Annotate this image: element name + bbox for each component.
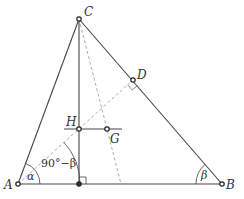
- label-a: A: [3, 178, 13, 192]
- label-g: G: [110, 132, 120, 146]
- point-h: [77, 127, 81, 131]
- triangle-diagram: C D H G A B α 90°−β β: [0, 0, 244, 199]
- right-angle-marker-d: [128, 85, 138, 90]
- point-g: [105, 127, 109, 131]
- label-h: H: [65, 115, 77, 129]
- point-foot: [77, 182, 81, 186]
- point-a: [16, 182, 20, 186]
- label-d: D: [136, 68, 147, 82]
- point-d: [131, 78, 135, 82]
- point-c: [77, 17, 81, 21]
- angle-label-alpha: α: [27, 170, 35, 183]
- angle-label-beta: β: [200, 169, 207, 182]
- label-c: C: [84, 5, 93, 19]
- point-b: [220, 182, 224, 186]
- angle-label-90-minus-beta: 90°−β: [41, 157, 76, 170]
- label-b: B: [225, 178, 235, 192]
